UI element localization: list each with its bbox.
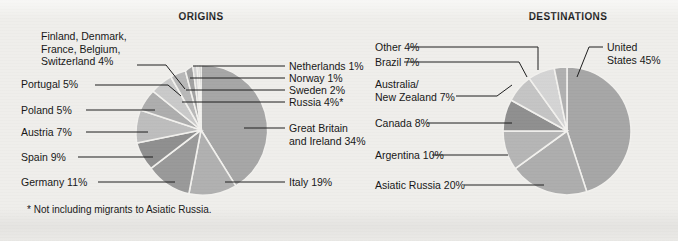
leader-line-other <box>409 47 538 70</box>
leader-lines <box>0 0 678 241</box>
migration-pie-chart-figure: ORIGINS DESTINATIONS <box>0 0 678 241</box>
leader-line-united-states <box>577 47 603 77</box>
leader-line-australia-new-zealand <box>456 85 512 96</box>
leader-line-portugal <box>95 85 181 96</box>
leader-line-brazil <box>404 62 527 77</box>
